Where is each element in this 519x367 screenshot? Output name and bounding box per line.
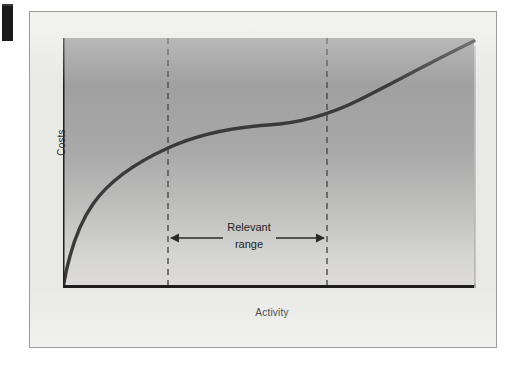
chart-plot-area: Relevant range	[63, 38, 476, 288]
x-axis-title-text: Activity	[255, 307, 288, 318]
x-axis-title: Activity	[30, 307, 498, 318]
plot-background	[63, 38, 474, 288]
page-tab-marker	[2, 4, 13, 41]
figure-frame: Relevant range Costs Activity	[29, 11, 497, 348]
relevant-range-label-line2: range	[235, 238, 263, 250]
relevant-range-label-line1: Relevant	[227, 221, 270, 233]
cost-curve-chart: Relevant range	[63, 38, 476, 288]
y-axis-title: Costs	[56, 103, 67, 183]
